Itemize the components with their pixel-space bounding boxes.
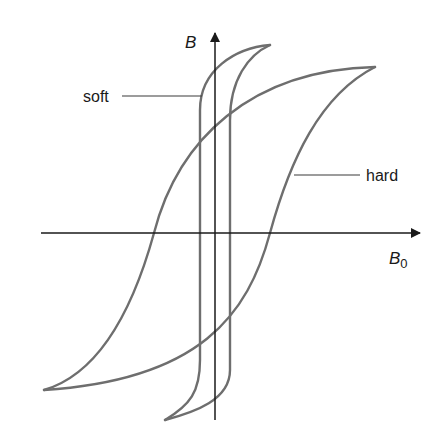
- y-axis-label: B: [185, 33, 196, 52]
- hard-loop: [44, 67, 375, 390]
- hard-loop-lower-branch: [44, 67, 375, 390]
- x-axis-label-main: B: [389, 249, 400, 268]
- hard-loop-upper-branch: [44, 67, 375, 390]
- x-axis-label: B0: [389, 249, 408, 271]
- x-axis-label-subscript: 0: [400, 256, 407, 271]
- soft-annotation: soft: [83, 88, 109, 105]
- hard-annotation: hard: [366, 167, 398, 184]
- hysteresis-diagram: B B0 soft hard: [0, 0, 445, 446]
